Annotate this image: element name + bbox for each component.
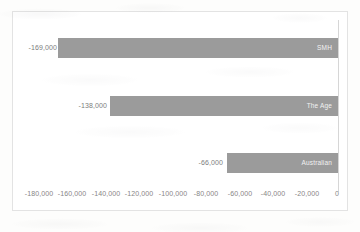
- bar-value-label: -66,000: [183, 153, 223, 173]
- bar-value-label: -138,000: [67, 96, 107, 116]
- x-tick-label: -20,000: [295, 190, 319, 197]
- x-tick-label: -80,000: [194, 190, 218, 197]
- x-tick-label: 0: [335, 190, 339, 197]
- x-tick-label: -160,000: [58, 190, 86, 197]
- x-tick-label: -60,000: [228, 190, 252, 197]
- chart-container: -169,000 SMH -138,000 The Age -66,000 Au…: [12, 11, 348, 211]
- x-tick-label: -120,000: [125, 190, 153, 197]
- bar-the-age[interactable]: The Age: [110, 96, 338, 116]
- bar-category-label: Australian: [302, 153, 332, 173]
- bar-row: -66,000 Australian: [13, 153, 349, 173]
- bar-category-label: SMH: [317, 38, 332, 58]
- x-tick-label: -40,000: [261, 190, 285, 197]
- bar-australian[interactable]: Australian: [227, 153, 338, 173]
- bar-row: -169,000 SMH: [13, 38, 349, 58]
- x-tick-label: -140,000: [92, 190, 120, 197]
- bar-category-label: The Age: [307, 96, 332, 116]
- x-tick-label: -180,000: [25, 190, 53, 197]
- bar-row: -138,000 The Age: [13, 96, 349, 116]
- bar-smh[interactable]: SMH: [58, 38, 338, 58]
- x-tick-label: -100,000: [159, 190, 187, 197]
- plot-area: -169,000 SMH -138,000 The Age -66,000 Au…: [13, 12, 349, 212]
- bar-value-label: -169,000: [17, 38, 57, 58]
- x-axis: -180,000 -160,000 -140,000 -120,000 -100…: [13, 190, 349, 204]
